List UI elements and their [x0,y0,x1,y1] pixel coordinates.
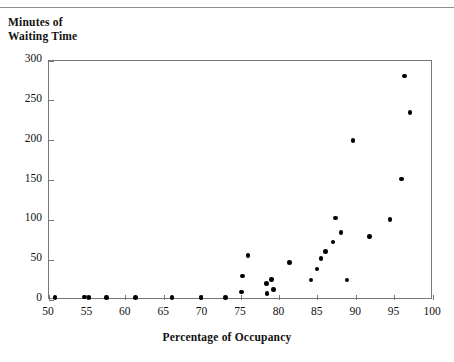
plot-area [48,60,432,299]
data-point [388,217,393,222]
x-tick-mark [433,295,434,300]
y-tick-label: 0 [4,291,42,303]
x-tick-mark [394,295,395,300]
x-tick-mark [279,295,280,300]
data-point [319,256,324,261]
y-tick-label: 200 [4,132,42,144]
data-point [315,267,320,272]
y-axis-title: Minutes of Waiting Time [8,15,77,43]
data-point [402,74,407,79]
data-point [345,278,350,283]
data-point [170,295,175,300]
clipped-headline-fragment: · · · [0,0,454,7]
y-axis-title-line1: Minutes of [8,15,77,29]
x-tick-label: 100 [417,305,447,317]
data-point [264,281,269,286]
data-point [239,290,244,295]
data-point [246,253,251,258]
x-tick-label: 95 [379,305,409,317]
x-tick-mark [49,295,50,300]
y-tick-mark [49,140,54,141]
x-tick-mark [317,295,318,300]
data-point [331,240,336,245]
data-point [53,295,58,300]
data-point [339,230,344,235]
data-point [240,274,245,279]
header-divider-rule [0,7,454,8]
y-tick-label: 250 [4,92,42,104]
data-point [309,278,314,283]
data-point [133,295,138,300]
y-tick-mark [49,260,54,261]
x-tick-label: 90 [340,305,370,317]
data-point [323,249,328,254]
data-point [269,277,274,282]
x-tick-label: 70 [187,305,217,317]
y-tick-label: 150 [4,172,42,184]
y-tick-mark [49,61,54,62]
x-tick-mark [356,295,357,300]
y-tick-mark [49,220,54,221]
x-tick-label: 85 [302,305,332,317]
data-point [351,138,356,143]
y-tick-mark [49,180,54,181]
x-tick-label: 60 [110,305,140,317]
x-tick-mark [125,295,126,300]
data-point [104,295,109,300]
y-tick-label: 50 [4,251,42,263]
data-point [367,234,372,239]
data-point [287,260,292,265]
data-point [399,177,404,182]
x-axis-title: Percentage of Occupancy [0,331,454,343]
x-tick-mark [164,295,165,300]
x-tick-label: 75 [225,305,255,317]
y-axis-title-line2: Waiting Time [8,29,77,43]
y-tick-mark [49,100,54,101]
data-point [82,295,87,300]
data-point [408,110,413,115]
data-point [333,216,338,221]
x-tick-label: 65 [148,305,178,317]
data-point [87,295,92,300]
y-tick-label: 100 [4,211,42,223]
data-point [271,287,276,292]
x-tick-mark [241,295,242,300]
x-tick-label: 80 [263,305,293,317]
data-point [223,295,228,300]
y-tick-label: 300 [4,52,42,64]
clipped-headline-text: · · · [64,0,84,4]
data-point [265,291,270,296]
x-tick-label: 50 [33,305,63,317]
x-tick-label: 55 [71,305,101,317]
